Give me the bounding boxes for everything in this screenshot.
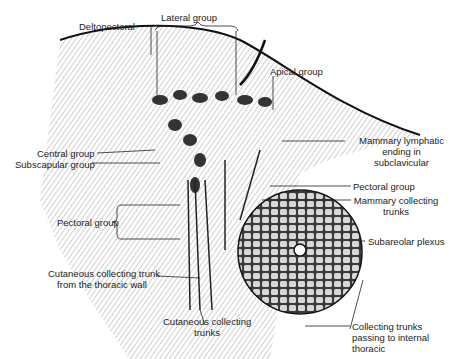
label-line: from the thoracic wall (48, 279, 156, 290)
label-line: ending in (350, 146, 453, 157)
label-internal-thoracic: Collecting trunks passing to internal th… (352, 321, 429, 354)
label-mammary-collecting-trunks: Mammary collecting trunks (351, 195, 441, 217)
label-deltopectoral: Deltopectoral (79, 21, 135, 32)
label-subscapular-group: Subscapular group (15, 159, 95, 170)
label-pectoral-group-right: Pectoral group (353, 181, 415, 192)
label-line: subclavicular (350, 157, 453, 168)
label-cutaneous-trunks: Cutaneous collecting trunks (163, 316, 251, 338)
label-central-group: Central group (37, 148, 95, 159)
label-line: Cutaneous collecting trunk (48, 268, 156, 279)
label-line: trunks (163, 327, 251, 338)
label-line: Mammary collecting (351, 195, 441, 206)
label-lateral-group: Lateral group (161, 12, 217, 23)
label-line: Mammary lymphatic (350, 135, 453, 146)
label-line: Collecting trunks (352, 321, 429, 332)
label-line: Cutaneous collecting (163, 316, 251, 327)
label-line: thoracic (352, 343, 429, 354)
label-mammary-lymphatic: Mammary lymphatic ending in subclavicula… (350, 135, 453, 168)
label-pectoral-group-left: Pectoral group (57, 217, 119, 228)
label-line: trunks (351, 206, 441, 217)
label-apical-group: Apical group (270, 66, 323, 77)
axilla-breast-illustration (0, 0, 453, 359)
label-cutaneous-thoracic-wall: Cutaneous collecting trunk from the thor… (48, 268, 156, 290)
anatomy-diagram: Deltopectoral Lateral group Apical group… (0, 0, 453, 359)
label-subareolar-plexus: Subareolar plexus (368, 236, 445, 247)
label-line: passing to internal (352, 332, 429, 343)
